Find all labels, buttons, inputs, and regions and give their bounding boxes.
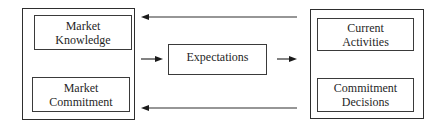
- arrowhead-left-icon: [141, 14, 149, 20]
- arrow-state-to-expectations: [141, 56, 163, 62]
- arrows-layer: [0, 0, 446, 126]
- arrowhead-right-icon: [155, 56, 163, 62]
- arrow-top-feedback: [141, 14, 297, 20]
- arrow-bottom-feedback: [141, 105, 297, 111]
- arrow-expectations-to-change: [277, 56, 297, 62]
- arrowhead-left-icon: [141, 105, 149, 111]
- arrowhead-right-icon: [289, 56, 297, 62]
